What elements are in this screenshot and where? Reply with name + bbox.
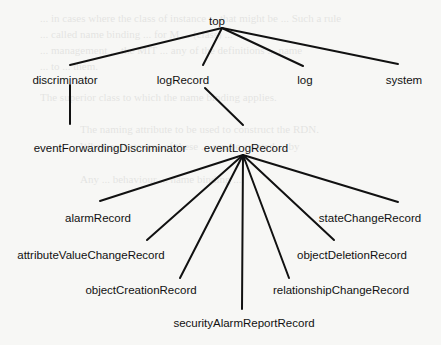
edge-eventLogRecord-to-objectCreationRecord — [180, 155, 243, 278]
node-discriminator: discriminator — [32, 74, 97, 86]
tree-diagram: ... in cases where the class of instance… — [0, 0, 441, 345]
edge-eventLogRecord-to-securityAlarmReportRecord — [242, 155, 243, 309]
edge-eventLogRecord-to-relationshipChangeRecord — [243, 155, 289, 278]
node-logRecord: logRecord — [157, 74, 209, 86]
edge-eventLogRecord-to-stateChangeRecord — [243, 155, 398, 202]
inheritance-tree: topdiscriminatorlogRecordlogsystemeventF… — [0, 0, 441, 345]
node-relationshipChangeRecord: relationshipChangeRecord — [273, 284, 409, 296]
node-eventLogRecord: eventLogRecord — [204, 142, 288, 154]
node-objectDeletionRecord: objectDeletionRecord — [297, 249, 407, 261]
node-top: top — [209, 15, 225, 27]
edge-top-to-discriminator — [70, 28, 222, 65]
node-securityAlarmReportRecord: securityAlarmReportRecord — [173, 317, 314, 329]
node-log: log — [297, 74, 312, 86]
edge-top-to-logRecord — [203, 28, 222, 65]
tree-edges — [70, 28, 398, 309]
edge-eventLogRecord-to-objectDeletionRecord — [243, 155, 334, 240]
node-objectCreationRecord: objectCreationRecord — [85, 284, 196, 296]
edge-logRecord-to-eventLogRecord — [205, 88, 243, 125]
node-eventForwardingDiscriminator: eventForwardingDiscriminator — [34, 142, 187, 154]
node-stateChangeRecord: stateChangeRecord — [319, 212, 421, 224]
edge-eventLogRecord-to-attributeValueChangeRecord — [147, 155, 243, 240]
node-attributeValueChangeRecord: attributeValueChangeRecord — [17, 249, 164, 261]
node-alarmRecord: alarmRecord — [65, 212, 131, 224]
node-system: system — [386, 74, 422, 86]
edge-top-to-log — [222, 28, 303, 66]
edge-top-to-system — [222, 28, 398, 64]
edge-eventLogRecord-to-alarmRecord — [100, 155, 243, 201]
